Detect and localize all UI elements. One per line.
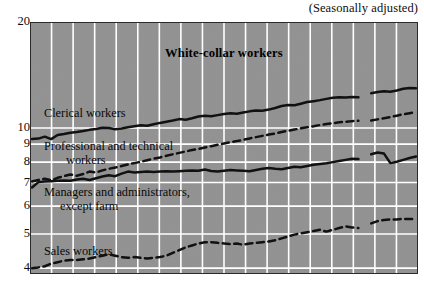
y-axis-tick-7: 7 (4, 176, 30, 188)
series-label-clerical: Clerical workers (44, 106, 126, 121)
y-axis-tick-10: 10 (4, 121, 30, 133)
y-axis-tick-9: 9 (4, 137, 30, 149)
y-axis-tick-20: 20 (4, 15, 30, 27)
plot-area: White-collar workers Clerical workers Pr… (30, 22, 418, 274)
series-label-professional: Professional and technical workers (44, 139, 173, 168)
y-axis: 2010987654 (0, 0, 30, 286)
professional-line-1: Professional and technical (44, 139, 173, 153)
chart-title: White-collar workers (165, 46, 283, 61)
y-axis-tick-4: 4 (4, 261, 30, 273)
professional-line-2: workers (44, 153, 106, 168)
series-label-sales: Sales workers (44, 244, 113, 259)
y-axis-tick-8: 8 (4, 155, 30, 167)
y-axis-tick-5: 5 (4, 227, 30, 239)
y-axis-tick-6: 6 (4, 199, 30, 211)
managers-line-1: Managers and administrators, (44, 185, 190, 199)
chart-figure: (Seasonally adjusted) 2010987654 Whi (0, 0, 424, 286)
seasonally-adjusted-note: (Seasonally adjusted) (309, 1, 418, 16)
managers-line-2: except farm (44, 199, 118, 214)
series-label-managers: Managers and administrators, except farm (44, 185, 190, 214)
